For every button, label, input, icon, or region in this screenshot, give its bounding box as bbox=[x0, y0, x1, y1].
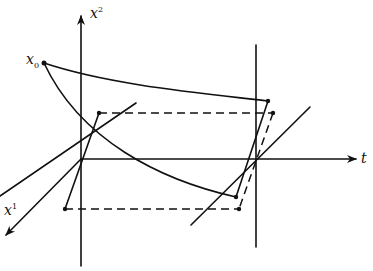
x2-axis-label: x2 bbox=[90, 6, 103, 20]
left-segment bbox=[65, 113, 99, 209]
t-axis-label: t bbox=[361, 151, 367, 165]
x1-axis-label: x1 bbox=[4, 203, 17, 217]
point-right-top-curve bbox=[266, 99, 270, 103]
x1-sup: 1 bbox=[12, 202, 17, 211]
right-segment bbox=[236, 101, 268, 197]
point-right-bottom-dash bbox=[237, 207, 241, 211]
diagram-canvas: x2 t x1 x0 bbox=[0, 0, 373, 271]
point-right-top-dash bbox=[271, 111, 275, 115]
x2-base: x bbox=[90, 5, 98, 21]
lower-curve bbox=[44, 63, 236, 197]
x0-sub: 0 bbox=[34, 61, 39, 70]
point-left-bottom bbox=[63, 207, 67, 211]
x0-label: x0 bbox=[26, 52, 39, 70]
diagram-svg bbox=[0, 0, 373, 271]
point-right-bottom-curve bbox=[234, 195, 238, 199]
x1-base: x bbox=[4, 202, 12, 218]
left-diagonal bbox=[0, 103, 136, 196]
x0-point bbox=[42, 61, 47, 66]
x0-base: x bbox=[26, 51, 34, 67]
point-left-top bbox=[97, 111, 101, 115]
right-diagonal bbox=[191, 107, 310, 225]
x2-sup: 2 bbox=[98, 5, 103, 14]
upper-curve bbox=[44, 63, 268, 101]
